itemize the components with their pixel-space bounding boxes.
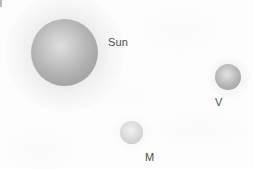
corner-artifact-mark [0,0,2,7]
venus-label: V [215,96,223,108]
mercury-label: M [145,151,154,163]
venus-sphere-icon [215,64,241,90]
sun-sphere-icon [31,19,98,86]
mercury-sphere-icon [120,121,143,144]
sun-label: Sun [108,36,128,48]
diagram-canvas: Sun V M [0,0,253,169]
